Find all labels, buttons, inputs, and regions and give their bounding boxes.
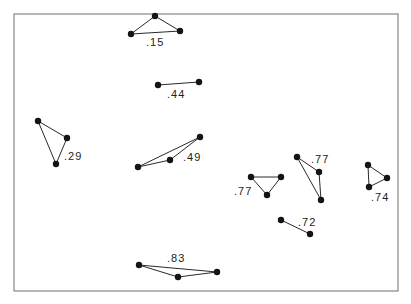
- figure-fig-15: .15: [128, 13, 183, 48]
- figure-fig-83: .83: [136, 252, 220, 280]
- figure-fig-44: .44: [155, 79, 202, 100]
- node-dot: [197, 134, 203, 140]
- edge: [131, 16, 155, 34]
- node-dot: [155, 82, 161, 88]
- figure-label: .77: [234, 185, 252, 197]
- node-dot: [152, 13, 158, 19]
- edge: [251, 177, 267, 195]
- figure-label: .49: [183, 151, 201, 163]
- node-dot: [307, 231, 313, 237]
- figure-fig-49: .49: [135, 134, 203, 170]
- node-dot: [366, 184, 372, 190]
- node-dot: [167, 157, 173, 163]
- node-dot: [175, 274, 181, 280]
- node-dot: [64, 135, 70, 141]
- edge: [138, 160, 170, 167]
- figure-label: .44: [167, 88, 185, 100]
- node-dot: [135, 164, 141, 170]
- edge: [158, 82, 199, 85]
- node-dot: [136, 262, 142, 268]
- node-dot: [196, 79, 202, 85]
- figure-fig-77a: .77: [234, 174, 284, 198]
- diagram-canvas: .15.44.29.49.77.77.74.72.83: [0, 0, 411, 304]
- figure-fig-77b: .77: [294, 153, 329, 203]
- node-dot: [294, 154, 300, 160]
- edge: [38, 121, 67, 138]
- node-dot: [316, 169, 322, 175]
- figure-label: .74: [371, 191, 389, 203]
- node-dot: [264, 192, 270, 198]
- node-dot: [248, 174, 254, 180]
- figure-label: .72: [298, 216, 316, 228]
- edge: [368, 165, 387, 178]
- edge: [131, 31, 180, 34]
- figure-group: .15.44.29.49.77.77.74.72.83: [35, 13, 390, 280]
- edge: [368, 165, 369, 187]
- figure-label: .83: [167, 252, 185, 264]
- node-dot: [128, 31, 134, 37]
- node-dot: [318, 197, 324, 203]
- figure-label: .29: [64, 150, 82, 162]
- node-dot: [365, 162, 371, 168]
- figure-fig-74: .74: [365, 162, 390, 203]
- node-dot: [53, 161, 59, 167]
- edge: [38, 121, 56, 164]
- node-dot: [177, 28, 183, 34]
- node-dot: [35, 118, 41, 124]
- edge: [178, 272, 217, 277]
- edge: [267, 177, 281, 195]
- figure-fig-29: .29: [35, 118, 82, 167]
- figure-label: .15: [146, 36, 164, 48]
- node-dot: [214, 269, 220, 275]
- figure-label: .77: [311, 153, 329, 165]
- node-dot: [384, 175, 390, 181]
- figure-fig-72: .72: [278, 216, 316, 237]
- node-dot: [278, 174, 284, 180]
- node-dot: [278, 217, 284, 223]
- edge: [155, 16, 180, 31]
- edge: [319, 172, 321, 200]
